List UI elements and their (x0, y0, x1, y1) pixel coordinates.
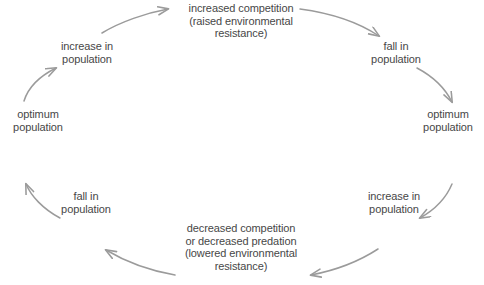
edge-fall-to-optimum-right (417, 68, 452, 102)
node-increase-in-population-lower-right: increase in population (355, 190, 433, 215)
node-fall-in-population-lower-left: fall in population (48, 190, 124, 215)
node-increase-in-population-upper-left: increase in population (48, 40, 126, 65)
edge-increase-to-increased-competition (102, 9, 168, 33)
node-fall-in-population-upper-right: fall in population (358, 40, 434, 65)
edge-increased-competition-to-fall (300, 9, 379, 36)
node-decreased-competition: decreased competition or decreased preda… (166, 222, 316, 272)
edge-optimum-left-to-increase (24, 68, 56, 101)
node-optimum-population-left: optimum population (2, 108, 74, 133)
edge-increase-to-decreased-competition (311, 249, 378, 275)
node-optimum-population-right: optimum population (412, 108, 484, 133)
population-cycle-diagram: optimum population increase in populatio… (0, 0, 484, 285)
node-increased-competition: increased competition (raised environmen… (173, 2, 309, 40)
edge-decreased-competition-to-fall (106, 250, 175, 275)
